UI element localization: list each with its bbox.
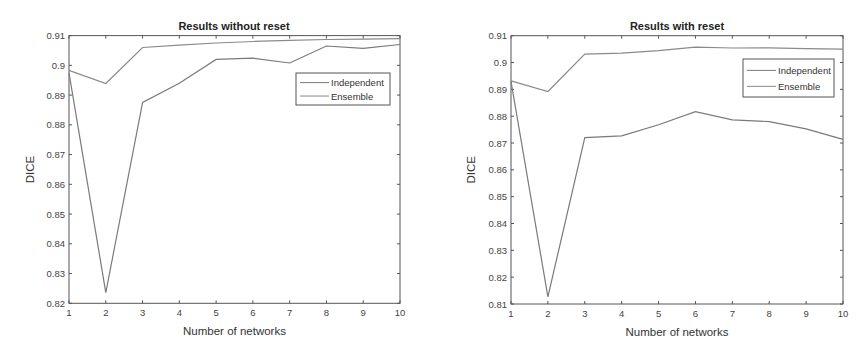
y-tick-label: 0.84 (47, 238, 66, 249)
y-tick-label: 0.9 (494, 57, 507, 68)
y-tick-label: 0.85 (47, 209, 66, 220)
y-axis-label: DICE (24, 155, 36, 183)
y-tick-label: 0.86 (47, 179, 66, 190)
chart-results-without-reset: 123456789100.820.830.840.850.860.870.880… (0, 0, 430, 352)
y-tick-label: 0.88 (489, 111, 508, 122)
legend-label: Independent (778, 65, 831, 76)
y-tick-label: 0.88 (47, 119, 66, 130)
y-tick-label: 0.89 (489, 84, 508, 95)
x-axis-label: Number of networks (183, 325, 286, 337)
chart-svg: 123456789100.810.820.830.840.850.860.870… (437, 0, 867, 352)
x-tick-label: 8 (324, 307, 329, 318)
x-tick-label: 3 (140, 307, 145, 318)
y-tick-label: 0.89 (47, 90, 66, 101)
y-axis-label: DICE (465, 156, 477, 184)
y-tick-label: 0.87 (47, 149, 66, 160)
y-tick-label: 0.86 (489, 164, 508, 175)
legend: IndependentEnsemble (296, 73, 390, 105)
y-tick-label: 0.83 (489, 245, 508, 256)
y-tick-label: 0.9 (52, 60, 65, 71)
chart-svg: 123456789100.820.830.840.850.860.870.880… (0, 0, 430, 352)
y-tick-label: 0.83 (47, 268, 66, 279)
x-tick-label: 9 (803, 308, 808, 319)
x-tick-label: 4 (177, 307, 182, 318)
x-tick-label: 5 (656, 308, 661, 319)
x-tick-label: 10 (395, 307, 406, 318)
x-tick-label: 2 (103, 307, 108, 318)
series-line-independent (511, 81, 843, 296)
legend: IndependentEnsemble (743, 59, 834, 97)
y-tick-label: 0.82 (489, 272, 508, 283)
x-tick-label: 3 (582, 308, 587, 319)
y-tick-label: 0.82 (47, 298, 66, 309)
y-tick-label: 0.84 (489, 218, 508, 229)
x-tick-label: 6 (693, 308, 698, 319)
y-tick-label: 0.85 (489, 191, 508, 202)
chart-results-with-reset: 123456789100.810.820.830.840.850.860.870… (437, 0, 867, 352)
x-tick-label: 1 (508, 308, 513, 319)
y-tick-label: 0.91 (47, 30, 66, 41)
legend-label: Ensemble (331, 91, 373, 102)
x-tick-label: 1 (66, 307, 71, 318)
y-tick-label: 0.81 (489, 299, 508, 310)
x-tick-label: 7 (287, 307, 292, 318)
y-tick-label: 0.91 (489, 30, 508, 41)
legend-label: Independent (331, 77, 384, 88)
legend-label: Ensemble (778, 81, 820, 92)
x-tick-label: 8 (767, 308, 772, 319)
x-tick-label: 7 (730, 308, 735, 319)
x-tick-label: 6 (250, 307, 255, 318)
x-tick-label: 10 (838, 308, 849, 319)
x-tick-label: 2 (545, 308, 550, 319)
chart-title: Results without reset (178, 20, 290, 32)
x-axis-label: Number of networks (626, 326, 729, 338)
y-tick-label: 0.87 (489, 138, 508, 149)
x-tick-label: 5 (213, 307, 218, 318)
chart-title: Results with reset (630, 20, 724, 32)
x-tick-label: 9 (361, 307, 366, 318)
x-tick-label: 4 (619, 308, 624, 319)
